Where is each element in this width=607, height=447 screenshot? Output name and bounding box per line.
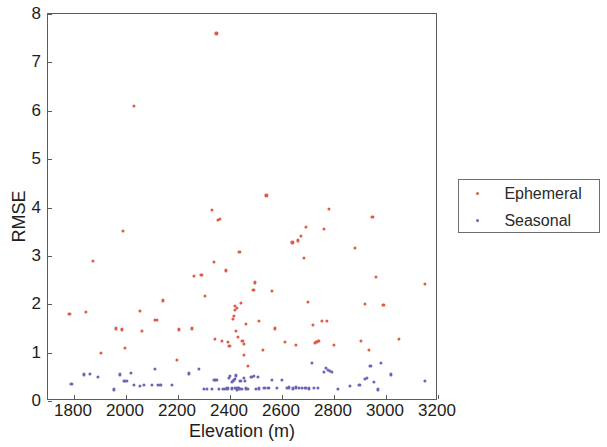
data-point-ephemeral xyxy=(212,260,215,263)
data-point-ephemeral xyxy=(258,320,261,323)
legend-item-seasonal[interactable]: Seasonal xyxy=(459,207,599,234)
data-point-seasonal xyxy=(348,384,351,387)
data-point-ephemeral xyxy=(320,320,323,323)
data-point-ephemeral xyxy=(294,343,297,346)
data-point-seasonal xyxy=(150,383,153,386)
y-tick-mark xyxy=(48,208,52,209)
data-point-ephemeral xyxy=(311,323,314,326)
data-point-ephemeral xyxy=(364,303,367,306)
data-point-seasonal xyxy=(197,367,200,370)
data-point-ephemeral xyxy=(327,207,330,210)
data-point-seasonal xyxy=(96,375,99,378)
data-point-seasonal xyxy=(119,373,122,376)
data-point-seasonal xyxy=(330,370,333,373)
data-point-ephemeral xyxy=(374,276,377,279)
data-point-ephemeral xyxy=(193,275,196,278)
data-point-ephemeral xyxy=(115,327,118,330)
data-point-ephemeral xyxy=(190,327,193,330)
data-points-layer xyxy=(48,14,436,399)
data-point-ephemeral xyxy=(323,228,326,231)
data-point-ephemeral xyxy=(228,344,231,347)
data-point-seasonal xyxy=(228,374,231,377)
data-point-ephemeral xyxy=(317,339,320,342)
data-point-seasonal xyxy=(256,375,259,378)
data-point-seasonal xyxy=(239,379,242,382)
data-point-ephemeral xyxy=(236,307,239,310)
data-point-seasonal xyxy=(307,387,310,390)
x-tick-mark xyxy=(74,395,75,399)
data-point-seasonal xyxy=(263,386,266,389)
data-point-seasonal xyxy=(258,387,261,390)
data-point-ephemeral xyxy=(200,274,203,277)
data-point-ephemeral xyxy=(423,282,426,285)
data-point-seasonal xyxy=(275,386,278,389)
x-tick-label: 2400 xyxy=(210,402,248,419)
y-tick-label: 2 xyxy=(32,295,41,312)
data-point-seasonal xyxy=(390,373,393,376)
data-point-seasonal xyxy=(159,383,162,386)
data-point-ephemeral xyxy=(232,314,235,317)
data-point-ephemeral xyxy=(304,225,307,228)
data-point-seasonal xyxy=(280,379,283,382)
data-point-ephemeral xyxy=(231,317,234,320)
x-tick-label: 1800 xyxy=(54,402,92,419)
data-point-ephemeral xyxy=(245,322,248,325)
y-tick-label: 8 xyxy=(32,5,41,22)
data-point-seasonal xyxy=(247,387,250,390)
data-point-ephemeral xyxy=(132,104,135,107)
data-point-ephemeral xyxy=(360,339,363,342)
data-point-ephemeral xyxy=(123,346,126,349)
legend: Ephemeral Seasonal xyxy=(458,179,600,233)
data-point-ephemeral xyxy=(226,340,229,343)
data-point-ephemeral xyxy=(371,216,374,219)
x-tick-mark xyxy=(230,395,231,399)
legend-label-ephemeral: Ephemeral xyxy=(504,186,581,202)
data-point-seasonal xyxy=(187,372,190,375)
data-point-seasonal xyxy=(369,365,372,368)
data-point-ephemeral xyxy=(100,351,103,354)
legend-item-ephemeral[interactable]: Ephemeral xyxy=(459,180,599,207)
x-tick-label: 3000 xyxy=(366,402,404,419)
data-point-seasonal xyxy=(337,387,340,390)
scatter-chart-figure: 012345678 180020002200240026002800300032… xyxy=(0,0,607,447)
y-tick-label: 3 xyxy=(32,246,41,263)
data-point-ephemeral xyxy=(238,250,241,253)
data-point-ephemeral xyxy=(332,343,335,346)
data-point-seasonal xyxy=(358,383,361,386)
data-point-ephemeral xyxy=(121,328,124,331)
data-point-ephemeral xyxy=(284,340,287,343)
data-point-seasonal xyxy=(129,371,132,374)
data-point-seasonal xyxy=(89,372,92,375)
legend-label-seasonal: Seasonal xyxy=(504,213,571,229)
data-point-seasonal xyxy=(132,383,135,386)
data-point-ephemeral xyxy=(291,241,294,244)
data-point-ephemeral xyxy=(162,299,165,302)
data-point-seasonal xyxy=(234,374,237,377)
data-point-ephemeral xyxy=(215,32,218,35)
data-point-ephemeral xyxy=(235,329,238,332)
data-point-ephemeral xyxy=(270,290,273,293)
data-point-seasonal xyxy=(243,379,246,382)
y-tick-mark xyxy=(48,111,52,112)
data-point-ephemeral xyxy=(353,246,356,249)
x-tick-mark xyxy=(282,395,283,399)
data-point-ephemeral xyxy=(306,300,309,303)
y-tick-mark xyxy=(48,304,52,305)
data-point-seasonal xyxy=(215,378,218,381)
data-point-seasonal xyxy=(240,387,243,390)
x-axis-title: Elevation (m) xyxy=(47,421,437,442)
data-point-seasonal xyxy=(379,362,382,365)
data-point-seasonal xyxy=(316,386,319,389)
data-point-ephemeral xyxy=(262,349,265,352)
legend-marker-icon-seasonal xyxy=(476,219,479,222)
data-point-ephemeral xyxy=(273,327,276,330)
data-point-ephemeral xyxy=(253,281,256,284)
data-point-seasonal xyxy=(252,374,255,377)
data-point-seasonal xyxy=(170,383,173,386)
data-point-seasonal xyxy=(372,380,375,383)
data-point-seasonal xyxy=(113,388,116,391)
x-tick-label: 2600 xyxy=(262,402,300,419)
data-point-seasonal xyxy=(82,373,85,376)
data-point-ephemeral xyxy=(296,239,299,242)
data-point-ephemeral xyxy=(239,302,242,305)
